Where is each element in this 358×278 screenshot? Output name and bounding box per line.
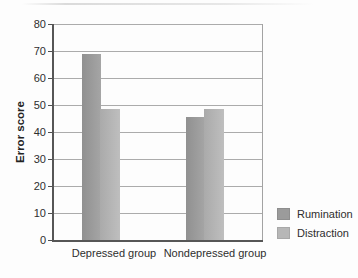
bar-chart-figure: Error score 01020304050607080Depressed g… (0, 0, 358, 278)
y-tick-label-40: 40 (14, 126, 46, 138)
legend-label-rumination: Rumination (297, 208, 353, 220)
legend-swatch-distraction (277, 227, 290, 239)
legend-swatch-rumination (277, 208, 290, 220)
gridline-70 (54, 51, 262, 52)
gridline-80 (54, 24, 262, 25)
x-category-label-depressed-group: Depressed group (72, 247, 156, 259)
bar-rumination-depressed-group (82, 54, 101, 240)
legend: RuminationDistraction (277, 205, 353, 243)
y-tick-label-20: 20 (14, 180, 46, 192)
y-tick-label-70: 70 (14, 45, 46, 57)
plot-frame-right (262, 24, 263, 240)
y-tick-label-30: 30 (14, 153, 46, 165)
y-tick-label-10: 10 (14, 207, 46, 219)
bar-distraction-depressed-group (100, 109, 120, 240)
y-tick-label-50: 50 (14, 99, 46, 111)
y-tick-label-60: 60 (14, 72, 46, 84)
legend-item-distraction: Distraction (277, 224, 353, 242)
y-axis-line (52, 24, 54, 241)
x-category-label-nondepressed-group: Nondepressed group (164, 247, 267, 259)
x-axis-line (52, 240, 263, 242)
legend-label-distraction: Distraction (297, 227, 349, 239)
y-tick-label-80: 80 (14, 18, 46, 30)
legend-item-rumination: Rumination (277, 205, 353, 223)
y-tick-label-0: 0 (14, 234, 46, 246)
bar-distraction-nondepressed-group (204, 109, 224, 240)
bar-rumination-nondepressed-group (186, 117, 205, 240)
